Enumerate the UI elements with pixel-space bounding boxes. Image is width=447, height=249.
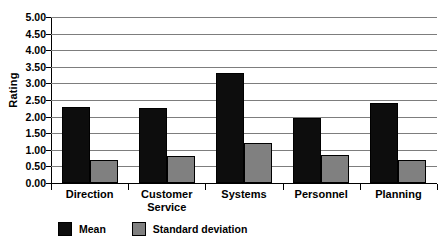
y-axis-tick-mark bbox=[46, 133, 51, 134]
bar-mean bbox=[293, 118, 321, 183]
bar-mean bbox=[216, 73, 244, 183]
y-axis-tick-mark bbox=[46, 100, 51, 101]
x-axis-tick-mark bbox=[283, 184, 284, 190]
x-axis-tick-mark bbox=[51, 184, 52, 190]
legend-swatch-mean-icon bbox=[58, 222, 72, 236]
x-axis-tick-mark bbox=[128, 184, 129, 190]
bar-group bbox=[360, 17, 437, 183]
y-axis-tick-label: 4.00 bbox=[14, 45, 46, 55]
bar-standard-deviation bbox=[90, 160, 118, 183]
legend-entry-mean: Mean bbox=[58, 222, 106, 236]
x-axis-tick-label: Customer Service bbox=[128, 188, 205, 214]
x-axis-tick-mark bbox=[437, 184, 438, 190]
x-axis-tick-label: Direction bbox=[51, 188, 128, 201]
y-axis-tick-mark bbox=[46, 117, 51, 118]
y-axis-tick-mark bbox=[46, 67, 51, 68]
y-axis-tick-label: 4.50 bbox=[14, 29, 46, 39]
y-axis-tick-label: 1.00 bbox=[14, 145, 46, 155]
chart-legend: Mean Standard deviation bbox=[58, 222, 247, 236]
legend-swatch-standard-deviation-icon bbox=[132, 222, 146, 236]
y-axis-tick-labels: 5.004.504.003.503.002.502.001.501.000.50… bbox=[14, 17, 46, 183]
bars-layer bbox=[51, 17, 437, 183]
y-axis-tick-label: 2.00 bbox=[14, 112, 46, 122]
y-axis-tick-label: 3.00 bbox=[14, 78, 46, 88]
bar-group bbox=[205, 17, 282, 183]
legend-label-standard-deviation: Standard deviation bbox=[153, 223, 248, 235]
y-axis-tick-label: 0.50 bbox=[14, 161, 46, 171]
legend-label-mean: Mean bbox=[79, 223, 106, 235]
bar-group bbox=[128, 17, 205, 183]
y-axis-tick-label: 5.00 bbox=[14, 12, 46, 22]
bar-group bbox=[51, 17, 128, 183]
bar-standard-deviation bbox=[321, 155, 349, 183]
x-axis-tick-label: Systems bbox=[205, 188, 282, 201]
y-axis-tick-mark bbox=[46, 34, 51, 35]
y-axis-tick-label: 1.50 bbox=[14, 128, 46, 138]
x-axis-tick-label: Personnel bbox=[283, 188, 360, 201]
x-axis-tick-label: Planning bbox=[360, 188, 437, 201]
bar-mean bbox=[370, 103, 398, 183]
y-axis-tick-label: 2.50 bbox=[14, 95, 46, 105]
y-axis-tick-mark bbox=[46, 150, 51, 151]
y-axis-tick-label: 0.00 bbox=[14, 178, 46, 188]
bar-chart: Rating 5.004.504.003.503.002.502.001.501… bbox=[0, 0, 447, 249]
legend-entry-standard-deviation: Standard deviation bbox=[132, 222, 248, 236]
bar-group bbox=[283, 17, 360, 183]
x-axis-tick-labels: DirectionCustomer ServiceSystemsPersonne… bbox=[51, 188, 437, 224]
y-axis-tick-mark bbox=[46, 83, 51, 84]
y-axis-tick-label: 3.50 bbox=[14, 62, 46, 72]
gridline bbox=[51, 183, 437, 184]
y-axis-tick-mark bbox=[46, 50, 51, 51]
y-axis-tick-mark bbox=[46, 17, 51, 18]
bar-standard-deviation bbox=[398, 160, 426, 183]
x-axis-tick-mark bbox=[360, 184, 361, 190]
bar-standard-deviation bbox=[167, 156, 195, 183]
bar-mean bbox=[62, 107, 90, 183]
plot-area bbox=[51, 17, 437, 183]
bar-mean bbox=[139, 108, 167, 183]
bar-standard-deviation bbox=[244, 143, 272, 183]
x-axis-tick-mark bbox=[205, 184, 206, 190]
y-axis-tick-mark bbox=[46, 166, 51, 167]
